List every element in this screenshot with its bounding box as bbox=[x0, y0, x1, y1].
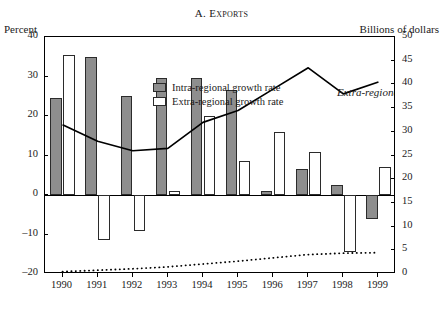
legend-item-extra: Extra-regional growth rate bbox=[153, 95, 283, 107]
y-axis-tick-label: –20 bbox=[4, 267, 38, 278]
y2-axis-tick-label: 10 bbox=[402, 220, 413, 231]
x-axis-tick-label: 1992 bbox=[121, 279, 142, 290]
x-axis-tick-label: 1997 bbox=[297, 279, 318, 290]
x-axis-tick-label: 1996 bbox=[262, 279, 283, 290]
y2-axis-tick-label: 20 bbox=[402, 172, 413, 183]
y2-axis-tick-label: 45 bbox=[402, 54, 413, 65]
x-axis-tick-mark bbox=[132, 273, 133, 277]
x-axis-tick-mark bbox=[97, 273, 98, 277]
chart-figure: A. Exports Percent Billions of dollars 4… bbox=[0, 0, 443, 311]
legend: Intra-regional growth rate Extra-regiona… bbox=[153, 81, 283, 109]
x-axis-tick-label: 1994 bbox=[191, 279, 212, 290]
x-axis-tick-label: 1991 bbox=[86, 279, 107, 290]
legend-label-extra: Extra-regional growth rate bbox=[172, 96, 283, 107]
legend-swatch-extra-icon bbox=[153, 97, 166, 106]
y-axis-tick-label: 30 bbox=[4, 70, 38, 81]
legend-swatch-intra-icon bbox=[153, 83, 166, 92]
y2-axis-tick-label: 5 bbox=[402, 243, 407, 254]
y2-axis-tick-label: 35 bbox=[402, 101, 413, 112]
legend-label-intra: Intra-regional growth rate bbox=[172, 82, 280, 93]
line-series bbox=[63, 253, 379, 272]
x-axis-tick-label: 1995 bbox=[227, 279, 248, 290]
y-axis-tick-label: –10 bbox=[4, 228, 38, 239]
x-axis-tick-mark bbox=[202, 273, 203, 277]
page-title: A. Exports bbox=[0, 7, 443, 19]
y2-axis-tick-label: 40 bbox=[402, 77, 413, 88]
x-axis-tick-label: 1993 bbox=[156, 279, 177, 290]
y-axis-tick-label: 0 bbox=[4, 188, 38, 199]
x-axis-tick-label: 1990 bbox=[51, 279, 72, 290]
right-axis-title: Billions of dollars bbox=[360, 23, 439, 35]
x-axis-tick-mark bbox=[62, 273, 63, 277]
legend-item-intra: Intra-regional growth rate bbox=[153, 81, 283, 93]
y-axis-tick-label: 20 bbox=[4, 109, 38, 120]
x-axis-tick-mark bbox=[307, 273, 308, 277]
annotation-intra-regional-value: Intra-regional value bbox=[241, 269, 330, 273]
x-axis-tick-mark bbox=[237, 273, 238, 277]
x-axis-tick-mark bbox=[167, 273, 168, 277]
x-axis-tick-mark bbox=[342, 273, 343, 277]
y-axis-tick-label: 40 bbox=[4, 30, 38, 41]
y2-axis-tick-label: 0 bbox=[402, 267, 407, 278]
y-axis-tick-label: 10 bbox=[4, 149, 38, 160]
plot-area: Intra-regional growth rate Extra-regiona… bbox=[44, 36, 395, 273]
y2-axis-tick-label: 50 bbox=[402, 30, 413, 41]
x-axis-tick-label: 1998 bbox=[332, 279, 353, 290]
annotation-extra-regional-value: Extra-regional value bbox=[337, 86, 395, 98]
x-axis-tick-label: 1999 bbox=[367, 279, 388, 290]
lines-layer bbox=[45, 37, 395, 273]
x-axis-tick-mark bbox=[377, 273, 378, 277]
y2-axis-tick-label: 25 bbox=[402, 149, 413, 160]
y2-axis-tick-label: 15 bbox=[402, 196, 413, 207]
x-axis-tick-mark bbox=[272, 273, 273, 277]
y2-axis-tick-label: 30 bbox=[402, 125, 413, 136]
